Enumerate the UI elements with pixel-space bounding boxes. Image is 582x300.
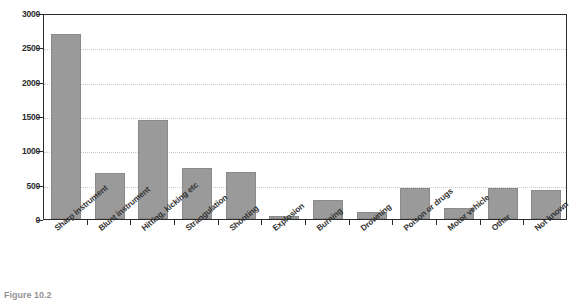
- y-axis-tick-label: 2000: [4, 78, 40, 88]
- x-axis-tick: [305, 220, 306, 225]
- plot-area: [43, 14, 567, 220]
- bar: [138, 120, 168, 219]
- x-axis-tick: [130, 220, 131, 225]
- y-axis-tick-label: 1500: [4, 112, 40, 122]
- x-axis-tick: [174, 220, 175, 225]
- figure-caption: Figure 10.2: [4, 290, 52, 300]
- bar-chart: 050010001500200025003000 Sharp instrumen…: [0, 0, 582, 300]
- x-axis-tick: [392, 220, 393, 225]
- y-axis-tick-label: 3000: [4, 9, 40, 19]
- x-axis-tick: [436, 220, 437, 225]
- y-axis-tick-label: 500: [4, 181, 40, 191]
- x-axis-tick: [349, 220, 350, 225]
- bar: [51, 34, 81, 219]
- x-axis-tick: [523, 220, 524, 225]
- x-axis-tick: [261, 220, 262, 225]
- y-axis-tick-label: 1000: [4, 146, 40, 156]
- plot-inner: [44, 15, 566, 219]
- x-axis-tick: [218, 220, 219, 225]
- x-axis-tick: [87, 220, 88, 225]
- x-axis-tick: [480, 220, 481, 225]
- y-axis-tick-label: 2500: [4, 43, 40, 53]
- y-axis-tick-label: 0: [4, 215, 40, 225]
- bars-layer: [44, 15, 566, 219]
